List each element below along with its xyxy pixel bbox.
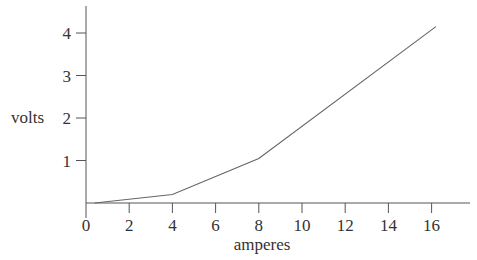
x-tick-label: 16 [423, 216, 440, 235]
x-tick-label: 6 [211, 216, 220, 235]
data-line [95, 27, 436, 203]
y-tick-label: 4 [63, 24, 72, 43]
x-tick-label: 0 [82, 216, 91, 235]
tick-marks [76, 33, 432, 213]
axes [86, 6, 470, 218]
chart-canvas: 02468101214161234 amperes volts [0, 0, 477, 260]
y-tick-label: 2 [63, 109, 72, 128]
y-tick-label: 1 [63, 152, 72, 171]
x-tick-label: 8 [255, 216, 264, 235]
x-tick-label: 12 [337, 216, 354, 235]
y-axis-label: volts [11, 108, 44, 127]
x-tick-label: 2 [125, 216, 134, 235]
x-tick-label: 14 [380, 216, 398, 235]
x-axis-label: amperes [234, 235, 291, 254]
x-tick-label: 10 [294, 216, 311, 235]
y-tick-label: 3 [63, 67, 72, 86]
x-tick-label: 4 [168, 216, 177, 235]
